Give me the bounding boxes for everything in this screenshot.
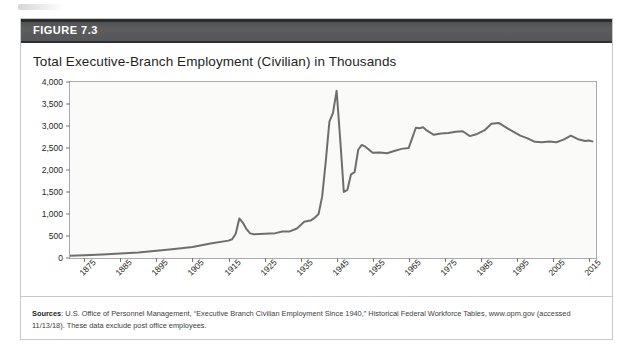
y-axis-tick <box>66 170 70 171</box>
y-axis-tick <box>66 126 70 127</box>
y-axis-tick-label: 4,000 <box>42 77 63 87</box>
y-axis-tick <box>66 192 70 193</box>
x-axis-tick <box>517 258 518 262</box>
y-axis-tick-label: 0 <box>58 253 63 263</box>
x-axis-tick-label: 1895 <box>150 257 170 277</box>
y-axis-tick-label: 3,000 <box>42 121 63 131</box>
x-axis-tick-label: 2005 <box>546 257 566 277</box>
x-axis-tick <box>265 258 266 262</box>
y-axis-tick-label: 2,000 <box>42 165 63 175</box>
x-axis-tick <box>481 258 482 262</box>
x-axis-tick-label: 1995 <box>510 257 530 277</box>
y-axis-tick <box>66 236 70 237</box>
x-axis-tick <box>445 258 446 262</box>
figure-number-label: FIGURE 7.3 <box>33 24 98 36</box>
y-axis-tick <box>66 214 70 215</box>
x-axis-tick <box>553 258 554 262</box>
x-axis-tick-label: 1965 <box>402 257 422 277</box>
x-axis-tick-label: 1955 <box>366 257 386 277</box>
x-axis-tick-label: 1935 <box>294 257 314 277</box>
employment-line-series <box>70 82 596 258</box>
employment-line <box>70 91 592 256</box>
plot-frame: 05001,0001,5002,0002,5003,0003,5004,0001… <box>69 81 597 259</box>
source-note: Sources: U.S. Office of Personnel Manage… <box>32 308 601 331</box>
figure-container: FIGURE 7.3 Total Executive-Branch Employ… <box>20 18 613 340</box>
x-axis-tick-label: 1975 <box>438 257 458 277</box>
figure-title: Total Executive-Branch Employment (Civil… <box>33 54 612 69</box>
x-axis-tick <box>229 258 230 262</box>
chart-area: 05001,0001,5002,0002,5003,0003,5004,0001… <box>21 77 612 289</box>
x-axis-tick-label: 1915 <box>222 257 242 277</box>
y-axis-tick-label: 2,500 <box>42 143 63 153</box>
x-axis-tick-label: 1905 <box>186 257 206 277</box>
x-axis-tick-label: 1925 <box>258 257 278 277</box>
x-axis-tick <box>301 258 302 262</box>
x-axis-tick <box>373 258 374 262</box>
x-axis-tick-label: 1875 <box>78 257 98 277</box>
source-divider <box>21 296 612 297</box>
x-axis-tick <box>337 258 338 262</box>
x-axis-tick <box>409 258 410 262</box>
y-axis-tick <box>66 82 70 83</box>
source-text: : U.S. Office of Personnel Management, “… <box>32 309 571 329</box>
y-axis-tick <box>66 258 70 259</box>
y-axis-tick-label: 1,500 <box>42 187 63 197</box>
figure-header-bar: FIGURE 7.3 <box>21 19 612 43</box>
y-axis-tick-label: 3,500 <box>42 99 63 109</box>
x-axis-tick-label: 1945 <box>330 257 350 277</box>
x-axis-tick-label: 2015 <box>582 257 602 277</box>
y-axis-tick-label: 500 <box>49 231 63 241</box>
source-label: Sources <box>32 309 61 318</box>
y-axis-tick-label: 1,000 <box>42 209 63 219</box>
x-axis-tick-label: 1885 <box>114 257 134 277</box>
scan-artifact <box>18 4 64 10</box>
y-axis-tick <box>66 148 70 149</box>
y-axis-tick <box>66 104 70 105</box>
x-axis-tick-label: 1985 <box>474 257 494 277</box>
